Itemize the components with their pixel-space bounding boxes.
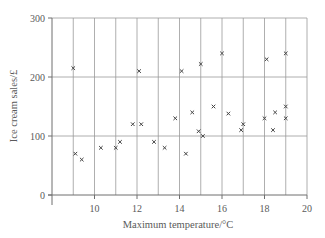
data-point-x-marker	[190, 111, 194, 115]
tick-labels: 0100200300101214161820	[30, 13, 312, 215]
x-tick-label: 14	[175, 203, 185, 214]
data-point-x-marker	[99, 146, 103, 150]
data-point-x-marker	[152, 140, 156, 144]
gridlines	[52, 18, 307, 195]
data-point-x-marker	[212, 105, 216, 109]
data-point-x-marker	[184, 152, 188, 156]
data-point-x-marker	[139, 122, 143, 126]
axes	[48, 18, 307, 205]
data-point-x-marker	[118, 140, 122, 144]
y-tick-label: 200	[30, 72, 45, 83]
x-axis-title: Maximum temperature/°C	[123, 219, 234, 230]
data-point-x-marker	[227, 112, 231, 116]
x-tick-label: 12	[132, 203, 142, 214]
y-axis-title: Ice cream sales/£	[8, 70, 19, 142]
data-point-x-marker	[137, 69, 141, 73]
x-tick-label: 20	[302, 203, 312, 214]
data-point-x-marker	[180, 69, 184, 73]
x-tick-label: 18	[260, 203, 270, 214]
y-tick-label: 300	[30, 13, 45, 24]
data-point-x-marker	[197, 129, 201, 133]
data-point-x-marker	[80, 158, 84, 162]
y-tick-label: 0	[40, 190, 45, 201]
x-tick-label: 10	[90, 203, 100, 214]
x-tick-label: 16	[217, 203, 227, 214]
y-tick-label: 100	[30, 131, 45, 142]
data-point-x-marker	[273, 111, 277, 115]
data-point-x-marker	[271, 128, 275, 132]
data-point-x-marker	[163, 146, 167, 150]
data-point-x-marker	[173, 117, 177, 121]
data-point-x-marker	[74, 152, 78, 156]
scatter-chart: 0100200300101214161820 Maximum temperatu…	[0, 0, 325, 238]
data-point-x-marker	[239, 128, 243, 132]
data-point-x-marker	[131, 122, 135, 126]
data-point-x-marker	[265, 58, 269, 62]
